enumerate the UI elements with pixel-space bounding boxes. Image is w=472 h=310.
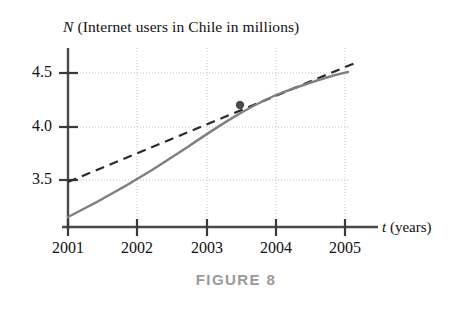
x-tick-label-2005: 2005 [316,239,374,257]
figure-8-container: N (Internet users in Chile in millions) [0,0,472,310]
tangent-point-marker [236,101,244,109]
y-tick-label-3-5: 3.5 [10,170,52,188]
figure-caption: FIGURE 8 [0,271,472,288]
x-axis-label: t (years) [382,219,432,236]
y-tick-label-4-5: 4.5 [10,63,52,81]
tangent-line [68,63,355,182]
chart-plot-area [0,0,472,310]
x-tick-label-2002: 2002 [108,239,166,257]
y-tick-label-4-0: 4.0 [10,117,52,135]
x-tick-label-2004: 2004 [247,239,305,257]
x-tick-label-2001: 2001 [39,239,97,257]
x-tick-label-2003: 2003 [178,239,236,257]
x-axis-label-rest: (years) [386,219,431,235]
internet-users-curve [68,72,348,217]
gridlines-vertical [137,48,345,227]
